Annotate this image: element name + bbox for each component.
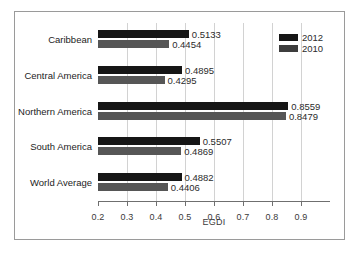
legend-item-2012: 2012 bbox=[279, 32, 323, 43]
category-label: Northern America bbox=[18, 105, 92, 116]
x-tick bbox=[127, 202, 128, 206]
x-tick bbox=[98, 202, 99, 206]
category-label: World Average bbox=[30, 177, 92, 188]
category-label: Central America bbox=[24, 69, 92, 80]
chart-legend: 20122010 bbox=[279, 32, 323, 54]
legend-swatch-2012 bbox=[279, 34, 298, 41]
chart-figure: 0.20.30.40.50.60.70.80.9 Caribbean0.5133… bbox=[14, 11, 345, 240]
category-label: South America bbox=[30, 141, 92, 152]
x-axis-label: EGDI bbox=[98, 217, 330, 227]
x-tick bbox=[301, 202, 302, 206]
bar-2012: 0.4882 bbox=[98, 173, 182, 181]
legend-label: 2012 bbox=[302, 32, 323, 43]
x-tick bbox=[156, 202, 157, 206]
x-tick bbox=[272, 202, 273, 206]
x-tick bbox=[185, 202, 186, 206]
legend-label: 2010 bbox=[302, 43, 323, 54]
x-tick bbox=[243, 202, 244, 206]
category-label: Caribbean bbox=[48, 33, 92, 44]
bar-2010: 0.4406 bbox=[98, 183, 168, 191]
legend-swatch-2010 bbox=[279, 45, 298, 52]
bar-value-label: 0.4406 bbox=[171, 182, 200, 193]
legend-item-2010: 2010 bbox=[279, 43, 323, 54]
x-tick bbox=[214, 202, 215, 206]
